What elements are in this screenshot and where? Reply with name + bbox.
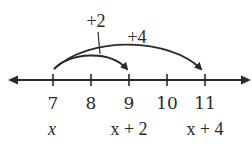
jump-labels: +2 +4	[86, 11, 146, 47]
left-arrow-icon	[8, 76, 18, 85]
tick-label-11: 11	[194, 93, 216, 113]
variable-label-x: x	[47, 119, 56, 139]
tick-label-9: 9	[124, 93, 135, 113]
number-line-diagram: 7 8 9 10 11 x x + 2 x + 4 +2 +4	[0, 0, 252, 147]
tick-label-7: 7	[48, 93, 59, 113]
variable-label-x-plus-2: x + 2	[110, 119, 147, 139]
variable-label-x-plus-4: x + 4	[186, 119, 223, 139]
tick-label-8: 8	[86, 93, 97, 113]
jump-label-plus-2: +2	[86, 11, 105, 31]
variable-labels: x x + 2 x + 4	[47, 119, 224, 139]
tick-label-10: 10	[156, 93, 178, 113]
right-arrow-icon	[241, 76, 251, 85]
plus-2-leader-line	[98, 32, 100, 54]
tick-labels: 7 8 9 10 11	[48, 93, 216, 113]
jump-arc-plus-2	[54, 55, 127, 69]
jump-label-plus-4: +4	[127, 27, 146, 47]
